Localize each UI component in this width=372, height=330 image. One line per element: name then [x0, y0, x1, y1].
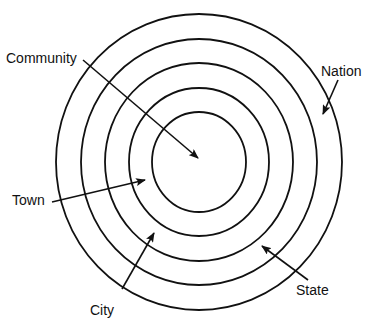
ring-town — [129, 88, 269, 236]
rings — [56, 14, 342, 310]
label-town: Town — [12, 193, 45, 207]
label-nation: Nation — [321, 64, 361, 78]
town-arrow — [52, 180, 145, 202]
arrows — [52, 60, 338, 289]
label-community: Community — [6, 51, 77, 65]
ring-nation — [56, 14, 342, 310]
state-arrow — [262, 246, 308, 280]
ring-city — [105, 63, 293, 261]
label-city: City — [90, 303, 114, 317]
ring-state — [81, 39, 317, 285]
city-arrow — [122, 233, 154, 289]
ring-community — [152, 112, 246, 212]
label-state: State — [296, 283, 329, 297]
nation-arrow — [323, 80, 338, 114]
community-arrow — [83, 60, 198, 158]
